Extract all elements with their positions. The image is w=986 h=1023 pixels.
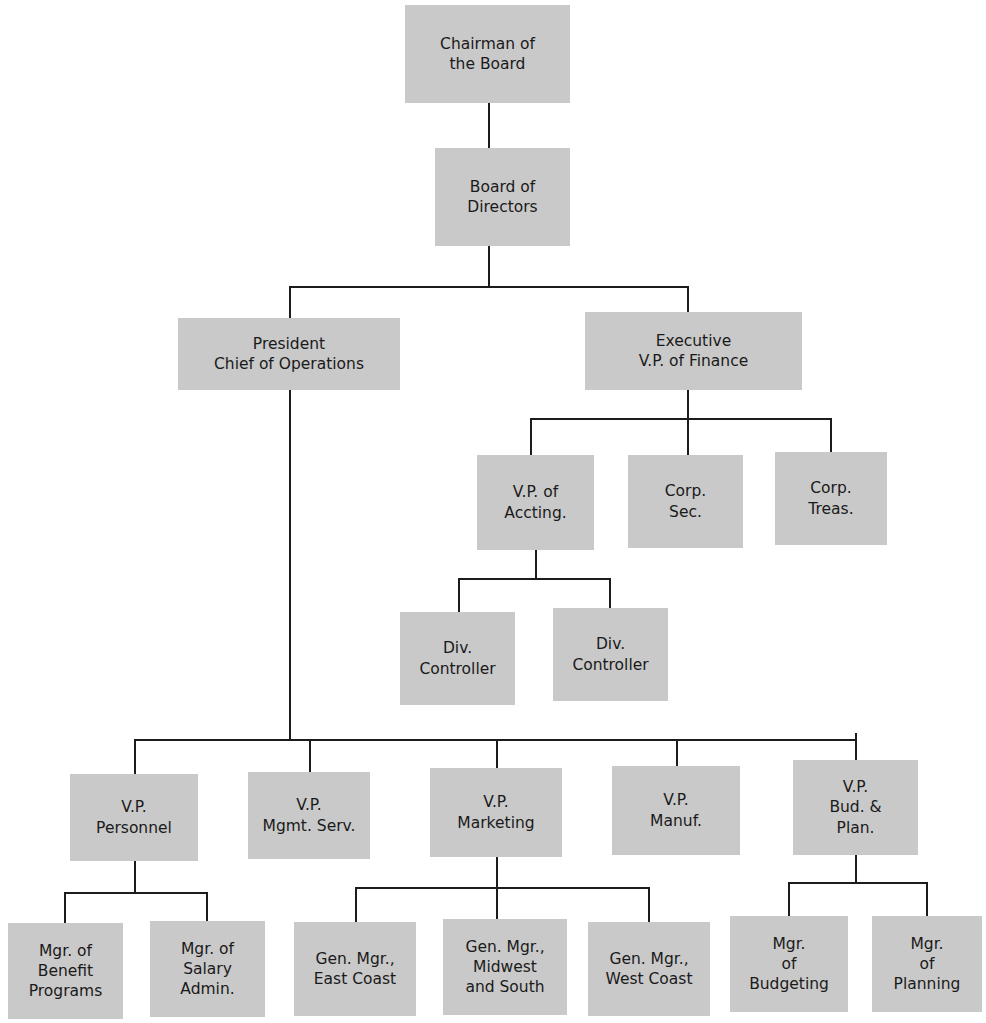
org-node-label: Executive V.P. of Finance: [639, 331, 748, 371]
org-node-vp-marketing[interactable]: V.P. Marketing: [430, 768, 562, 857]
connector-president-drop-budplan: [855, 733, 857, 760]
org-node-label: Mgr. of Benefit Programs: [29, 941, 102, 1001]
org-node-label: Div. Controller: [419, 638, 495, 678]
connector-personnel-bus: [64, 892, 207, 894]
org-node-label: Div. Controller: [572, 634, 648, 674]
connector-execvp-stem-down: [687, 390, 689, 420]
org-node-vp-mgmt-serv[interactable]: V.P. Mgmt. Serv.: [248, 772, 370, 859]
org-node-gen-mgr-midwest[interactable]: Gen. Mgr., Midwest and South: [443, 919, 567, 1015]
org-node-vp-accting[interactable]: V.P. of Accting.: [477, 455, 594, 550]
org-node-president[interactable]: President Chief of Operations: [178, 318, 400, 390]
org-node-div-controller-1[interactable]: Div. Controller: [400, 612, 515, 705]
org-node-label: V.P. Mgmt. Serv.: [263, 795, 356, 835]
connector-vpaccting-bus: [458, 578, 611, 580]
org-node-label: V.P. Bud. & Plan.: [829, 777, 881, 837]
org-node-label: Corp. Treas.: [808, 478, 853, 518]
org-node-corp-treas[interactable]: Corp. Treas.: [775, 452, 887, 545]
org-node-vp-personnel[interactable]: V.P. Personnel: [70, 774, 198, 861]
org-node-label: V.P. Manuf.: [650, 790, 702, 830]
org-node-label: Mgr. of Salary Admin.: [180, 939, 234, 999]
org-chart-canvas: Chairman of the BoardBoard of DirectorsP…: [0, 0, 986, 1023]
org-node-gen-mgr-east[interactable]: Gen. Mgr., East Coast: [294, 922, 416, 1016]
org-node-label: Corp. Sec.: [665, 481, 706, 521]
connector-budplan-drop-budgeting: [788, 882, 790, 916]
org-node-label: V.P. Marketing: [457, 792, 534, 832]
connector-execvp-drop-corpsec: [687, 418, 689, 455]
org-node-label: Gen. Mgr., Midwest and South: [465, 937, 544, 997]
org-node-div-controller-2[interactable]: Div. Controller: [553, 608, 668, 701]
connector-execvp-bus: [530, 418, 832, 420]
org-node-vp-bud-plan[interactable]: V.P. Bud. & Plan.: [793, 760, 918, 855]
org-node-label: President Chief of Operations: [214, 334, 364, 374]
org-node-label: Board of Directors: [467, 177, 537, 217]
connector-marketing-stem-down: [496, 857, 498, 887]
connector-budplan-stem-down: [855, 855, 857, 882]
connector-personnel-drop-benefit: [64, 892, 66, 923]
org-node-board[interactable]: Board of Directors: [435, 148, 570, 246]
connector-personnel-stem-down: [134, 861, 136, 892]
connector-budplan-drop-planning: [926, 882, 928, 916]
connector-vpaccting-drop-div1: [458, 578, 460, 612]
org-node-label: Chairman of the Board: [440, 34, 535, 74]
org-node-gen-mgr-west[interactable]: Gen. Mgr., West Coast: [588, 922, 710, 1016]
connector-budplan-bus: [788, 882, 927, 884]
connector-president-drop-personnel: [134, 739, 136, 774]
connector-president-drop-mgmtserv: [309, 739, 311, 772]
connector-board-drop-execvp: [687, 286, 689, 312]
org-node-mgr-planning[interactable]: Mgr. of Planning: [872, 916, 982, 1012]
connector-board-stem-down: [488, 246, 490, 288]
org-node-mgr-salary-admin[interactable]: Mgr. of Salary Admin.: [150, 921, 265, 1017]
connector-vpaccting-stem-down: [535, 550, 537, 579]
connector-marketing-drop-midwest: [496, 887, 498, 919]
connector-board-drop-president: [289, 286, 291, 318]
org-node-mgr-budgeting[interactable]: Mgr. of Budgeting: [730, 916, 848, 1012]
org-node-exec-vp-finance[interactable]: Executive V.P. of Finance: [585, 312, 802, 390]
org-node-label: Gen. Mgr., East Coast: [314, 949, 396, 989]
org-node-label: Mgr. of Planning: [894, 934, 961, 994]
org-node-chairman[interactable]: Chairman of the Board: [405, 5, 570, 103]
org-node-vp-manuf[interactable]: V.P. Manuf.: [612, 766, 740, 855]
org-node-label: V.P. Personnel: [96, 797, 172, 837]
org-node-label: Mgr. of Budgeting: [749, 934, 829, 994]
connector-president-bus: [134, 739, 856, 741]
connector-personnel-drop-salary: [206, 892, 208, 921]
connector-execvp-drop-vpaccting: [530, 418, 532, 455]
org-node-label: Gen. Mgr., West Coast: [606, 949, 693, 989]
connector-president-stem-down: [289, 390, 291, 740]
connector-marketing-bus: [355, 887, 649, 889]
connector-vpaccting-drop-div2: [609, 578, 611, 608]
connector-execvp-drop-corptreas: [830, 418, 832, 452]
connector-board-bus: [289, 286, 689, 288]
connector-marketing-drop-east: [355, 887, 357, 922]
connector-marketing-drop-west: [648, 887, 650, 922]
connector-president-drop-marketing: [496, 739, 498, 768]
org-node-label: V.P. of Accting.: [504, 482, 566, 522]
org-node-mgr-benefit-programs[interactable]: Mgr. of Benefit Programs: [8, 923, 123, 1019]
connector-president-drop-manuf: [676, 739, 678, 766]
org-node-corp-sec[interactable]: Corp. Sec.: [628, 455, 743, 548]
connector-chairman-to-board: [488, 103, 490, 148]
